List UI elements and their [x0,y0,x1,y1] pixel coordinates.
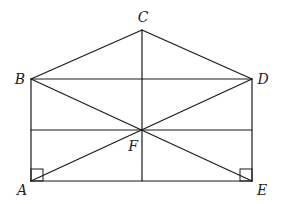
segments-group [31,30,252,181]
point-label-b: B [14,71,25,87]
point-label-d: D [256,71,268,87]
point-label-c: C [138,9,149,25]
segment-CB [31,30,142,79]
point-label-f: F [127,138,139,154]
right-angle-marker-e [240,169,252,181]
point-label-e: E [256,182,267,198]
right-angle-marker-a [31,169,43,181]
point-label-a: A [15,182,27,198]
segment-CD [142,30,252,79]
geometry-diagram: CBDFAE [0,0,283,204]
point-labels: CBDFAE [14,9,269,198]
